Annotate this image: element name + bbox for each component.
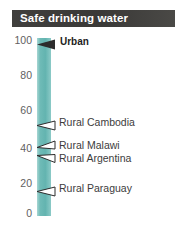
- annotation-rural-malawi-label: Rural Malawi: [56, 140, 120, 151]
- hollow-left-triangle-icon: [36, 150, 56, 168]
- y-tick-20: 20: [4, 178, 32, 188]
- y-tick-60: 60: [4, 105, 32, 115]
- plot-area: 100 80 60 40 20 0 Urban Rural Cambodia: [0, 0, 181, 235]
- annotation-rural-paraguay-label: Rural Paraguay: [56, 183, 132, 194]
- chart-figure: Safe drinking water 100 80 60 40 20 0 Ur…: [0, 0, 181, 235]
- y-tick-0: 0: [4, 208, 32, 218]
- y-tick-80: 80: [4, 70, 32, 80]
- y-tick-100: 100: [4, 35, 32, 45]
- annotation-rural-argentina: Rural Argentina: [36, 152, 131, 165]
- annotation-rural-cambodia-label: Rural Cambodia: [56, 117, 135, 128]
- hollow-left-triangle-icon: [36, 117, 56, 128]
- hollow-left-triangle-icon: [36, 183, 56, 194]
- y-tick-40: 40: [4, 143, 32, 153]
- annotation-rural-cambodia: Rural Cambodia: [36, 115, 135, 129]
- filled-left-triangle-icon: [36, 36, 56, 47]
- annotation-group-malawi-argentina: Rural Malawi Rural Argentina: [36, 139, 131, 165]
- annotation-urban-label: Urban: [56, 36, 89, 47]
- annotation-urban: Urban: [36, 34, 89, 48]
- annotation-rural-paraguay: Rural Paraguay: [36, 181, 132, 195]
- annotation-rural-argentina-label: Rural Argentina: [56, 153, 131, 164]
